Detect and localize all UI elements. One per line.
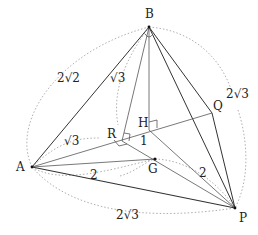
label-H: H	[138, 117, 148, 129]
edge-BQ	[149, 27, 212, 113]
edge-AQ	[32, 113, 212, 167]
diagram-canvas	[0, 0, 258, 235]
length-AP: 2√3	[116, 209, 139, 221]
edge-RP	[122, 141, 235, 208]
tetrahedron-diagram: B A P Q H R G 2√2 √3 √3 2√3 2√3 2 2 1	[0, 0, 258, 235]
label-R: R	[107, 128, 116, 140]
right-angle-H	[149, 120, 157, 128]
label-A: A	[16, 161, 25, 173]
point-P	[234, 207, 237, 210]
length-GP: 2	[199, 167, 207, 179]
edge-AB	[32, 27, 149, 167]
length-AR: √3	[64, 135, 79, 147]
edge-BP	[149, 27, 235, 208]
point-A	[31, 166, 34, 169]
length-AG: 2	[90, 169, 98, 181]
label-G: G	[148, 163, 158, 175]
label-Q: Q	[213, 100, 223, 112]
length-BQ: 2√3	[226, 88, 249, 100]
arc-QP	[235, 110, 246, 208]
length-BR: √3	[110, 72, 125, 84]
point-G	[153, 157, 156, 160]
edge-HP	[149, 130, 235, 208]
right-angle-R2	[124, 133, 130, 141]
length-AB: 2√2	[57, 72, 80, 84]
label-B: B	[145, 8, 154, 20]
label-P: P	[239, 212, 247, 224]
arc-BQ	[149, 27, 232, 92]
edge-AG	[32, 159, 155, 167]
edge-QP	[212, 113, 235, 208]
length-RH: 1	[140, 135, 148, 147]
point-B	[148, 26, 151, 29]
